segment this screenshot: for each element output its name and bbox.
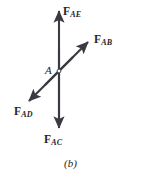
vector-diagram-canvas bbox=[0, 0, 141, 178]
vector-subscript-fac: AC bbox=[51, 138, 62, 147]
vector-subscript-fab: AB bbox=[101, 38, 112, 47]
vector-label-fab: FAB bbox=[94, 34, 112, 47]
vector-subscript-fae: AE bbox=[70, 10, 81, 19]
force-diagram-figure: FAE FAB FAD FAC A (b) bbox=[0, 0, 141, 178]
origin-point-label: A bbox=[45, 65, 52, 76]
vector-subscript-fad: AD bbox=[21, 110, 33, 119]
vector-label-fae: FAE bbox=[63, 6, 81, 19]
figure-caption: (b) bbox=[0, 158, 141, 169]
vector-label-fac: FAC bbox=[44, 134, 62, 147]
vector-label-fad: FAD bbox=[14, 106, 33, 119]
origin-point-node bbox=[57, 69, 61, 73]
